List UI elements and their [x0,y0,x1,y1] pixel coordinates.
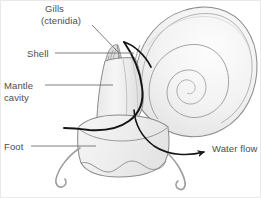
shell-structure [134,7,257,137]
snail-anatomy-figure: Gills (ctenidia) Shell Mantle cavity Foo… [0,0,261,198]
tentacle-right [165,151,185,190]
label-mantle-cavity: cavity [4,92,29,104]
label-mantle: Mantle [4,80,33,92]
tentacle-left [56,148,80,187]
label-water-flow: Water flow [212,143,258,155]
label-gills-ctenidia: (ctenidia) [41,15,81,27]
gills-leader-line [92,25,118,52]
label-gills: Gills [45,3,64,15]
label-foot: Foot [4,141,23,153]
label-shell: Shell [27,48,49,60]
anatomy-drawing [1,1,261,198]
